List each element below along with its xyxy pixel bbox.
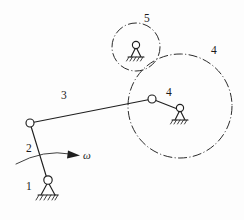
label-link-4-outer: 4 xyxy=(211,44,217,56)
crank-link-2 xyxy=(30,123,48,182)
mechanism-figure: 1 2 3 4 4 5 ω xyxy=(0,0,244,220)
fixed-pivot-gear-5 xyxy=(127,41,145,61)
coupler-link-3 xyxy=(30,99,152,123)
ground-hatching-gear-4 xyxy=(171,120,188,124)
label-link-4-inner: 4 xyxy=(166,86,172,98)
ground-hatching-1 xyxy=(36,195,58,200)
label-link-2: 2 xyxy=(26,142,32,154)
label-link-5: 5 xyxy=(144,12,150,24)
coupler-pin-joint xyxy=(148,95,156,103)
fixed-pivot-ground-1 xyxy=(36,176,58,200)
label-link-3: 3 xyxy=(61,89,67,101)
label-link-1: 1 xyxy=(26,180,32,192)
crank-pin-joint xyxy=(26,119,34,127)
ground-hatching-gear-5 xyxy=(127,57,144,61)
label-omega: ω xyxy=(83,149,91,161)
mechanism-diagram-canvas: 1 2 3 4 4 5 ω xyxy=(0,0,244,220)
